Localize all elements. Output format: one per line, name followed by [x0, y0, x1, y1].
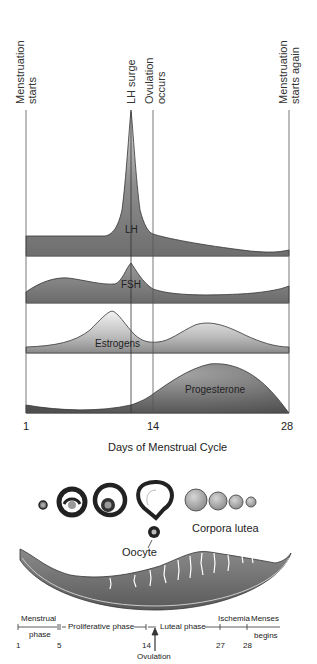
- x-tick-1: 1: [23, 420, 29, 432]
- x-axis-title: Days of Menstrual Cycle: [108, 441, 227, 453]
- x-tick-28: 28: [281, 420, 293, 432]
- lh-curve: [26, 110, 289, 256]
- fsh-label: FSH: [121, 279, 141, 290]
- endometrium: [20, 549, 291, 610]
- timeline-day-5: 5: [57, 641, 61, 650]
- menstrual-phase-label-2: phase: [29, 630, 51, 639]
- timeline-day-14: 14: [142, 641, 151, 650]
- menses-label-1: Menses: [251, 614, 279, 623]
- timeline-day-28: 28: [243, 641, 252, 650]
- timeline-day-27: 27: [216, 641, 225, 650]
- ovulation-label: Ovulation: [137, 652, 171, 661]
- oocyte-label: Oocyte: [122, 546, 157, 558]
- ischemia-label: Ischemia: [218, 614, 250, 623]
- corpora-lutea-label: Corpora lutea: [192, 522, 259, 534]
- menstrual-phase-label-1: Menstrual: [21, 614, 56, 623]
- x-tick-14: 14: [147, 420, 159, 432]
- lh-label: LH: [125, 224, 138, 235]
- proliferative-phase-label: Proliferative phase: [68, 622, 134, 631]
- progesterone-curve: [26, 364, 289, 413]
- progesterone-label: Progesterone: [185, 384, 245, 395]
- ovary-follicles: [39, 482, 172, 518]
- timeline-day-1: 1: [16, 641, 20, 650]
- corpora-lutea: [185, 489, 256, 511]
- hormone-chart: [0, 0, 317, 664]
- estrogens-curve: [26, 311, 289, 353]
- estrogens-label: Estrogens: [95, 338, 140, 349]
- oocyte: [148, 526, 160, 548]
- menses-label-2: begins: [254, 631, 278, 640]
- luteal-phase-label: Luteal phase: [160, 622, 206, 631]
- fsh-curve: [26, 263, 289, 303]
